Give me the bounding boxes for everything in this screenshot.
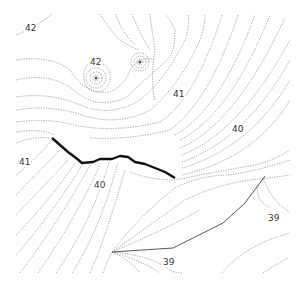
contour-label-40-right: 40 (231, 124, 244, 134)
contour-label-42-top-left: 42 (24, 23, 37, 33)
point-source-2-icon (139, 61, 142, 64)
fault-line (52, 138, 175, 178)
contour-label-39-right: 39 (267, 213, 280, 223)
point-source-1-icon (95, 77, 98, 80)
contour-label-40-center: 40 (93, 180, 106, 190)
contour-label-41-left: 41 (18, 157, 31, 167)
boundary-line (112, 176, 265, 252)
contour-map (0, 0, 304, 301)
contour-label-39-bottom: 39 (162, 257, 175, 267)
contour-label-42-source: 42 (89, 57, 102, 67)
contour-label-41-upper: 41 (172, 89, 185, 99)
